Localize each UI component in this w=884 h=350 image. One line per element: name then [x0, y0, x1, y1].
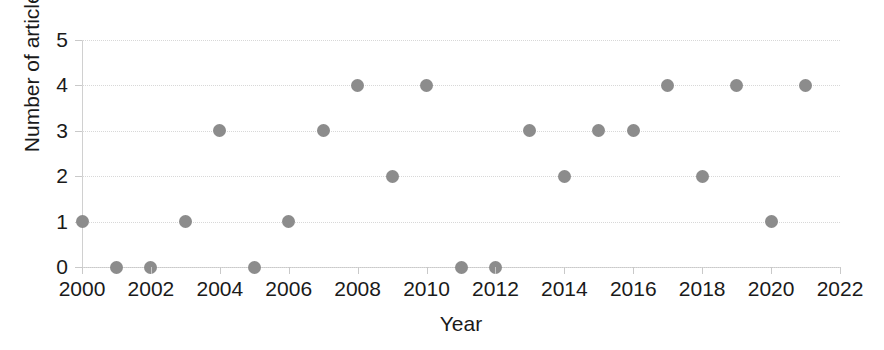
gridline-y-4 [82, 85, 840, 86]
data-point [76, 215, 89, 228]
data-point [351, 79, 364, 92]
x-tick-2010 [427, 267, 428, 274]
x-tick-label-2018: 2018 [679, 277, 726, 301]
data-point [386, 170, 399, 183]
x-axis-title: Year [82, 312, 840, 336]
data-point [558, 170, 571, 183]
y-tick-2 [75, 176, 82, 177]
x-tick-labels: 2000200220042006200820102012201420162018… [82, 267, 840, 307]
x-tick-label-2004: 2004 [196, 277, 243, 301]
x-tick-2014 [564, 267, 565, 274]
x-tick-2016 [633, 267, 634, 274]
y-tick-5 [75, 40, 82, 41]
x-tick-label-2020: 2020 [748, 277, 795, 301]
gridline-y-2 [82, 176, 840, 177]
y-tick-0 [75, 267, 82, 268]
y-tick-label-0: 0 [56, 255, 68, 279]
x-tick-2000 [82, 267, 83, 274]
x-tick-label-2012: 2012 [472, 277, 519, 301]
y-tick-label-4: 4 [56, 73, 68, 97]
y-tick-label-1: 1 [56, 210, 68, 234]
x-tick-label-2022: 2022 [817, 277, 864, 301]
x-tick-label-2014: 2014 [541, 277, 588, 301]
plot-area [82, 40, 840, 267]
y-tick-3 [75, 131, 82, 132]
data-point [627, 124, 640, 137]
data-point [592, 124, 605, 137]
gridline-y-3 [82, 131, 840, 132]
x-tick-label-2008: 2008 [334, 277, 381, 301]
y-axis-title: Number of articles [20, 0, 44, 187]
x-tick-2020 [771, 267, 772, 274]
y-tick-label-5: 5 [56, 28, 68, 52]
x-tick-label-2010: 2010 [403, 277, 450, 301]
x-tick-2012 [495, 267, 496, 274]
x-tick-2002 [151, 267, 152, 274]
data-point [730, 79, 743, 92]
x-tick-label-2016: 2016 [610, 277, 657, 301]
scatter-chart: 012345 200020022004200620082010201220142… [0, 0, 884, 350]
data-point [317, 124, 330, 137]
y-tick-label-3: 3 [56, 119, 68, 143]
gridline-y-1 [82, 222, 840, 223]
x-tick-2006 [289, 267, 290, 274]
x-tick-2022 [840, 267, 841, 274]
data-point [420, 79, 433, 92]
data-point [765, 215, 778, 228]
x-tick-2008 [358, 267, 359, 274]
data-point [661, 79, 674, 92]
data-point [213, 124, 226, 137]
gridline-y-5 [82, 40, 840, 41]
y-tick-label-2: 2 [56, 164, 68, 188]
data-point [179, 215, 192, 228]
data-point [696, 170, 709, 183]
y-tick-4 [75, 85, 82, 86]
x-tick-label-2002: 2002 [128, 277, 175, 301]
x-tick-2004 [220, 267, 221, 274]
data-point [799, 79, 812, 92]
x-tick-label-2006: 2006 [265, 277, 312, 301]
x-tick-label-2000: 2000 [59, 277, 106, 301]
x-tick-2018 [702, 267, 703, 274]
data-point [523, 124, 536, 137]
data-point [282, 215, 295, 228]
